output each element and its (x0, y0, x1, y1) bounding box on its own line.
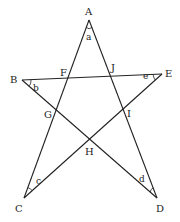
segment-ac (24, 20, 89, 198)
vertex-label-b: B (10, 74, 17, 85)
angle-arc-d (150, 188, 153, 192)
point-label-j: J (110, 62, 115, 73)
point-label-f: F (60, 67, 67, 78)
angle-arc-b (29, 80, 31, 86)
angle-arc-a (86, 28, 92, 29)
point-label-g: G (44, 109, 52, 120)
angle-label-c: c (36, 176, 41, 186)
vertex-label-e: E (165, 68, 172, 79)
angle-label-e: e (143, 71, 148, 81)
angle-label-d: d (139, 174, 145, 184)
angle-arc-c (28, 188, 32, 191)
angle-label-a: a (86, 32, 92, 42)
vertex-label-c: C (15, 203, 23, 214)
point-label-i: I (127, 108, 131, 119)
vertex-label-d: D (156, 203, 164, 214)
segment-be (22, 74, 162, 80)
vertex-label-a: A (84, 6, 93, 17)
pentagram-diagram: A B E C D F J G I H a b c d e (0, 0, 180, 222)
point-label-h: H (85, 146, 94, 157)
angle-label-b: b (33, 83, 39, 93)
angle-arc-e (153, 74, 155, 80)
